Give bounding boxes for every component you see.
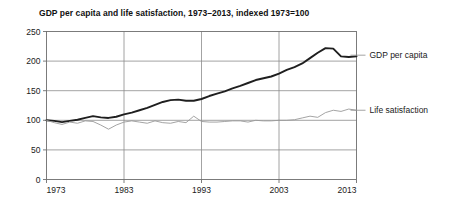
x-tick-label-1993: 1993 xyxy=(192,185,211,195)
y-tick-label-0: 0 xyxy=(36,175,41,185)
y-tick-label-50: 50 xyxy=(31,145,41,155)
y-tick-label-250: 250 xyxy=(26,27,40,37)
x-tick-label-1983: 1983 xyxy=(115,185,134,195)
x-tick-label-1973: 1973 xyxy=(47,185,66,195)
series-legend: GDP per capitaLife satisfaction xyxy=(351,50,429,115)
chart-plot-area: 050100150200250 19731983199320032013 GDP… xyxy=(0,0,450,208)
x-axis-labels: 19731983199320032013 xyxy=(47,185,357,195)
x-tick-group xyxy=(47,32,357,184)
chart-figure: GDP per capita and life satisfaction, 19… xyxy=(0,0,450,208)
x-tick-label-2013: 2013 xyxy=(338,185,357,195)
y-tick-group xyxy=(43,32,47,180)
legend-label-gdp-per-capita: GDP per capita xyxy=(370,50,428,60)
y-tick-label-150: 150 xyxy=(26,86,40,96)
x-tick-label-2003: 2003 xyxy=(270,185,289,195)
y-axis-labels: 050100150200250 xyxy=(26,27,40,185)
legend-label-life-satisfaction: Life satisfaction xyxy=(370,105,429,115)
y-tick-label-100: 100 xyxy=(26,115,40,125)
y-tick-label-200: 200 xyxy=(26,56,40,66)
